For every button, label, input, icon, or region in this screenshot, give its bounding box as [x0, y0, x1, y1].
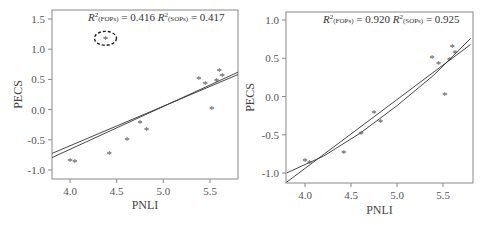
x-tick-label: 5.5: [436, 189, 450, 201]
y-axis-label: PECS: [11, 80, 25, 109]
y-tick-label: -1.0: [28, 164, 46, 176]
data-point-star: *: [137, 117, 143, 129]
x-tick-label: 5.0: [156, 185, 170, 197]
y-tick-label: -0.5: [28, 134, 46, 146]
x-tick-label: 4.0: [63, 185, 77, 197]
x-axis-label: PNLI: [366, 203, 393, 217]
data-point-star: *: [124, 134, 130, 146]
y-tick-label: -0.5: [262, 129, 280, 141]
data-point-star: *: [436, 58, 442, 70]
x-tick-label: 5.0: [390, 189, 404, 201]
right-scatter-panel: 4.04.55.05.51.00.50.0-0.5-1.0PNLIPECS***…: [243, 12, 473, 217]
r2-annotation: R2(FOPs) = 0.920 R2(SOPs) = 0.925: [322, 13, 460, 25]
data-point-star: *: [307, 157, 313, 169]
sops-fit-line: [51, 72, 238, 158]
x-tick-label: 4.0: [298, 189, 312, 201]
x-tick-label: 4.5: [344, 189, 358, 201]
data-point-star: *: [378, 116, 384, 128]
data-point-star: *: [442, 89, 448, 101]
plot-frame: [52, 10, 238, 179]
data-point-star: *: [144, 124, 150, 136]
data-point-star: *: [72, 156, 78, 168]
fit-lines: [51, 72, 238, 158]
data-point-star: *: [371, 107, 377, 119]
data-point-star: *: [452, 47, 458, 59]
data-point-star: *: [209, 103, 215, 115]
y-tick-label: 0.0: [31, 104, 45, 116]
y-tick-label: -1.0: [262, 167, 280, 179]
fops-fit-line: [287, 44, 471, 182]
y-axis-label: PECS: [243, 83, 257, 112]
x-tick-label: 5.5: [203, 185, 217, 197]
data-point-star: *: [196, 73, 202, 85]
y-tick-label: 1.0: [31, 43, 45, 55]
data-point-star: *: [429, 52, 435, 64]
left-scatter-panel: 4.04.55.05.51.51.00.50.0-0.5-1.0PNLIPECS…: [11, 10, 238, 212]
r2-annotation: R2(FOPs) = 0.416 R2(SOPs) = 0.417: [87, 11, 225, 23]
y-tick-label: 0.5: [31, 73, 45, 85]
data-point-star: *: [106, 148, 112, 160]
x-axis-label: PNLI: [132, 198, 159, 212]
data-point-star: *: [103, 33, 109, 45]
data-point-star: *: [219, 70, 225, 82]
y-tick-label: 1.5: [31, 13, 45, 25]
x-tick-label: 4.5: [110, 185, 124, 197]
y-tick-label: 1.0: [265, 14, 279, 26]
y-tick-label: 0.0: [265, 91, 279, 103]
chart-figure: 4.04.55.05.51.51.00.50.0-0.5-1.0PNLIPECS…: [0, 0, 485, 225]
data-point-star: *: [341, 147, 347, 159]
y-tick-label: 0.5: [265, 52, 279, 64]
sops-fit-line: [287, 38, 471, 173]
data-point-star: *: [358, 128, 364, 140]
data-point-star: *: [203, 78, 209, 90]
fit-lines: [287, 38, 471, 182]
